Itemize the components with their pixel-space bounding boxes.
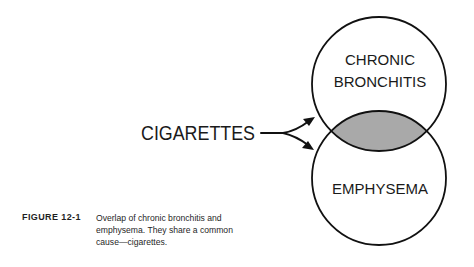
chronic-label-line2: BRONCHITIS <box>334 73 427 90</box>
emphysema-label: EMPHYSEMA <box>332 180 428 197</box>
figure-canvas: CHRONIC BRONCHITIS EMPHYSEMA CIGARETTES … <box>0 0 474 267</box>
figure-caption: Overlap of chronic bronchitis and emphys… <box>96 212 256 248</box>
arrowheads-icon <box>302 117 315 150</box>
chronic-label-line1: CHRONIC <box>345 51 415 68</box>
forked-arrow-icon <box>261 121 309 145</box>
figure-number: FIGURE 12-1 <box>22 212 81 222</box>
cigarettes-label: CIGARETTES <box>141 121 255 144</box>
